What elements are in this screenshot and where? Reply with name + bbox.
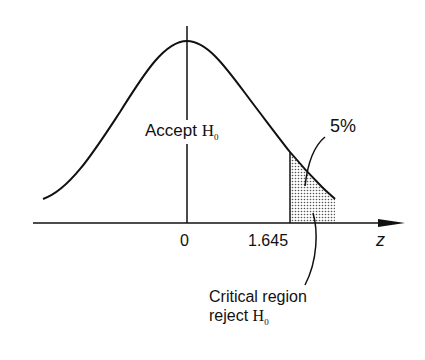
tick-label-zero: 0 (180, 232, 189, 250)
accept-text: Accept (145, 121, 197, 140)
axis-arrowhead-icon (378, 219, 405, 227)
critical-region-label: Critical region reject H0 (209, 287, 307, 328)
percent-label: 5% (330, 116, 356, 137)
critical-region-shading (290, 152, 335, 223)
reject-text: reject (209, 307, 248, 324)
critical-h: H (253, 307, 265, 324)
accept-h: H (202, 121, 214, 140)
critical-leader (305, 213, 316, 285)
accept-label: Accept H0 (145, 121, 219, 141)
axis-label-z: z (376, 230, 385, 251)
tick-label-critical: 1.645 (248, 232, 288, 250)
critical-line2: reject H0 (209, 306, 307, 328)
critical-sub: 0 (264, 317, 269, 327)
normal-distribution-diagram: Accept H0 5% 0 1.645 z Critical region r… (0, 0, 425, 360)
critical-line1: Critical region (209, 287, 307, 306)
accept-sub: 0 (214, 132, 219, 142)
